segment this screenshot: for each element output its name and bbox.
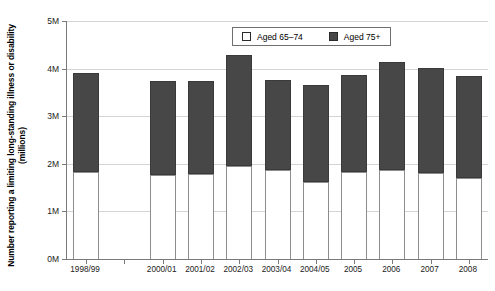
bar-segment-aged-75-plus	[418, 68, 444, 173]
x-axis-tick	[469, 260, 470, 264]
x-axis-tick	[239, 260, 240, 264]
legend-swatch-open-icon	[242, 32, 251, 41]
bar	[303, 85, 329, 259]
bar	[226, 55, 252, 259]
bar-segment-aged-65-74	[188, 174, 214, 259]
legend-item-label: Aged 65–74	[257, 32, 303, 42]
x-axis-tick-label: 1998/99	[70, 265, 100, 274]
x-axis-tick-label: 2003/04	[262, 265, 292, 274]
bar-segment-aged-75-plus	[341, 75, 367, 173]
x-axis-tick-label: 2008	[459, 265, 477, 274]
bar	[265, 80, 291, 259]
bar-segment-aged-75-plus	[379, 62, 405, 169]
bar	[341, 75, 367, 259]
y-axis-tick-label: 5M	[47, 16, 59, 26]
x-axis-tick	[124, 260, 125, 264]
x-axis-tick	[163, 260, 164, 264]
bar-segment-aged-75-plus	[188, 81, 214, 174]
x-axis-tick	[316, 260, 317, 264]
chart-figure: Number reporting a limiting long-standin…	[0, 0, 495, 291]
y-axis-tick	[62, 259, 66, 260]
x-axis-tick-label: 2002/03	[223, 265, 253, 274]
y-axis-tick	[62, 164, 66, 165]
y-axis-tick	[62, 69, 66, 70]
bar-segment-aged-65-74	[303, 182, 329, 259]
y-axis-title: Number reporting a limiting long-standin…	[2, 0, 32, 291]
bar-segment-aged-75-plus	[226, 55, 252, 165]
bar-segment-aged-65-74	[418, 173, 444, 259]
bar-segment-aged-65-74	[226, 166, 252, 259]
x-axis-tick-label: 2001/02	[185, 265, 215, 274]
y-axis-tick	[62, 21, 66, 22]
bar	[73, 73, 99, 259]
legend-swatch-filled-icon	[329, 32, 338, 41]
bar	[150, 81, 176, 260]
bar	[379, 62, 405, 259]
bar-segment-aged-75-plus	[265, 80, 291, 170]
y-axis-tick-label: 2M	[47, 159, 59, 169]
bar	[188, 81, 214, 259]
chart-legend: Aged 65–74Aged 75+	[232, 27, 391, 46]
x-axis-tick-label: 2004/05	[300, 265, 330, 274]
bar	[418, 68, 444, 259]
bar-segment-aged-75-plus	[456, 76, 482, 178]
bar-segment-aged-65-74	[456, 178, 482, 259]
y-axis-tick-label: 3M	[47, 111, 59, 121]
y-axis-tick-label: 1M	[47, 206, 59, 216]
y-axis-title-text: Number reporting a limiting long-standin…	[6, 6, 28, 286]
bar-segment-aged-75-plus	[303, 85, 329, 182]
x-axis-tick	[201, 260, 202, 264]
x-axis-tick	[392, 260, 393, 264]
y-axis-tick	[62, 116, 66, 117]
y-axis-tick-label: 4M	[47, 64, 59, 74]
bar-segment-aged-65-74	[379, 170, 405, 259]
legend-item: Aged 65–74	[242, 32, 303, 42]
bar	[456, 76, 482, 259]
x-axis-tick	[354, 260, 355, 264]
x-axis-tick-label: 2007	[420, 265, 438, 274]
x-axis-tick	[86, 260, 87, 264]
legend-item-label: Aged 75+	[344, 32, 381, 42]
x-axis-tick	[278, 260, 279, 264]
bar-segment-aged-65-74	[341, 172, 367, 259]
plot-area: 0M1M2M3M4M5M	[66, 21, 488, 260]
x-axis-tick-label: 2005	[344, 265, 362, 274]
bar-segment-aged-65-74	[150, 175, 176, 259]
gridline	[67, 21, 488, 22]
y-axis-tick-label: 0M	[47, 254, 59, 264]
x-axis-tick	[431, 260, 432, 264]
y-axis-tick	[62, 211, 66, 212]
bar-segment-aged-75-plus	[150, 81, 176, 175]
bar-segment-aged-65-74	[73, 172, 99, 259]
bar-segment-aged-75-plus	[73, 73, 99, 172]
x-axis-tick-label: 2000/01	[147, 265, 177, 274]
legend-item: Aged 75+	[329, 32, 381, 42]
x-axis-tick-label: 2006	[382, 265, 400, 274]
bar-segment-aged-65-74	[265, 170, 291, 259]
